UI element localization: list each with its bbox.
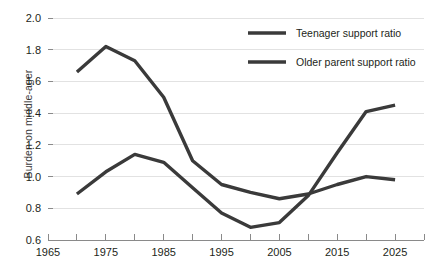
- x-tick-label: 2005: [267, 246, 291, 258]
- y-tick-label: 0.6: [26, 234, 41, 246]
- data-series: [77, 47, 395, 228]
- chart-legend: Teenager support ratioOlder parent suppo…: [248, 27, 416, 68]
- y-tick-label: 2.0: [26, 12, 41, 24]
- y-tick-label: 1.0: [26, 171, 41, 183]
- y-tick-label: 1.8: [26, 44, 41, 56]
- x-tick-labels: 1965197519851995200520152025: [36, 246, 408, 258]
- legend-label-1: Teenager support ratio: [296, 27, 401, 39]
- plot-area: 0.60.81.01.21.41.61.82.0 196519751985199…: [0, 0, 435, 280]
- y-tick-labels: 0.60.81.01.21.41.61.82.0: [26, 12, 41, 246]
- line-chart: Burden on middle-ager 0.60.81.01.21.41.6…: [0, 0, 435, 280]
- x-tick-label: 2015: [325, 246, 349, 258]
- y-tick-label: 1.6: [26, 75, 41, 87]
- y-tick-label: 1.2: [26, 139, 41, 151]
- series-line-2: [77, 105, 395, 227]
- legend-label-2: Older parent support ratio: [296, 56, 416, 68]
- y-tick-marks: [48, 18, 53, 240]
- x-tick-label: 1965: [36, 246, 60, 258]
- x-tick-label: 1975: [94, 246, 118, 258]
- x-tick-label: 2025: [383, 246, 407, 258]
- x-tick-marks: [48, 234, 424, 240]
- series-line-1: [77, 47, 395, 199]
- y-tick-label: 1.4: [26, 107, 41, 119]
- x-tick-label: 1985: [151, 246, 175, 258]
- y-tick-label: 0.8: [26, 202, 41, 214]
- x-tick-label: 1995: [209, 246, 233, 258]
